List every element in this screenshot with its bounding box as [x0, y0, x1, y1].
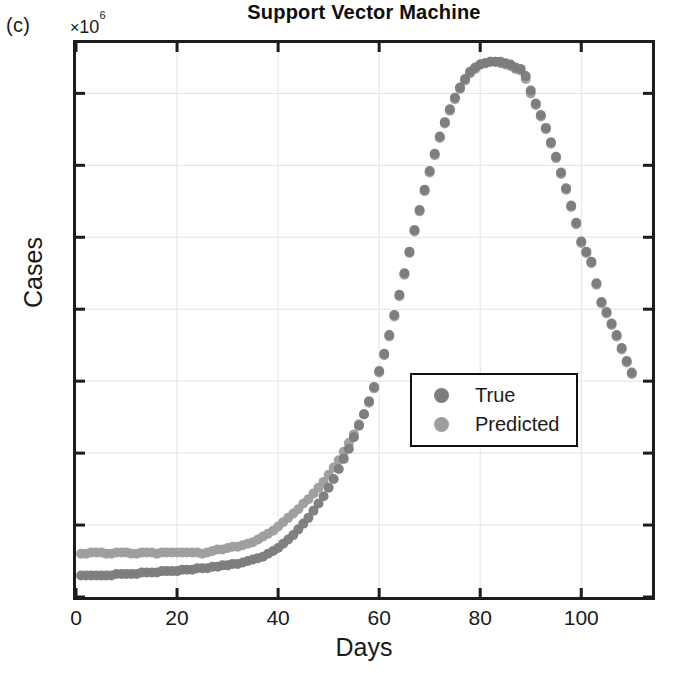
- exponent-power: 6: [99, 9, 105, 21]
- exponent-base: 10: [79, 17, 99, 37]
- legend-item: True: [422, 381, 560, 410]
- x-tick-label: 40: [238, 606, 318, 630]
- x-tick-label: 20: [137, 606, 217, 630]
- exponent-multiplier: ×: [70, 19, 79, 36]
- x-tick-label: 0: [36, 606, 116, 630]
- y-axis-title: Cases: [19, 218, 48, 328]
- y-axis-exponent-label: ×106: [70, 16, 106, 38]
- plot-area: [73, 40, 655, 600]
- legend-item: Predicted: [422, 410, 560, 439]
- legend-label: Predicted: [475, 413, 560, 436]
- panel-label: (c): [6, 14, 30, 37]
- x-axis-title: Days: [73, 633, 655, 662]
- legend-label: True: [475, 384, 515, 407]
- x-tick-label: 100: [541, 606, 621, 630]
- legend-marker-icon: [434, 388, 449, 403]
- tick-marks: [76, 43, 652, 597]
- scatter-plot-canvas: [76, 43, 652, 597]
- chart-legend: TruePredicted: [410, 373, 578, 447]
- x-tick-label: 60: [339, 606, 419, 630]
- chart-title: Support Vector Machine: [73, 1, 655, 24]
- gridlines: [76, 43, 652, 597]
- legend-marker-icon: [434, 417, 449, 432]
- x-tick-label: 80: [440, 606, 520, 630]
- series-predicted: [76, 57, 637, 559]
- chart-page: (c) Support Vector Machine ×106 Cases Da…: [0, 0, 675, 673]
- series-true: [76, 57, 637, 581]
